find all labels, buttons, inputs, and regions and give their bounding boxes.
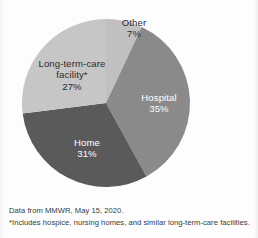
footnote-note: *Includes hospice, nursing homes, and si… (9, 217, 253, 229)
pie-label-other: Other 7% (104, 17, 164, 40)
pie-label-other-value: 7% (104, 28, 164, 39)
pie-label-home-name: Home (56, 137, 118, 148)
pie-label-hospital-name: Hospital (128, 92, 190, 103)
pie-label-long-term-care: Long-term-care facility* 27% (20, 58, 124, 92)
footnote-source: Data from MMWR, May 15, 2020. (9, 205, 253, 217)
pie-chart-figure: Other 7% Hospital 35% Home 31% Long-term… (0, 0, 258, 238)
pie-label-other-name: Other (104, 17, 164, 28)
pie-label-home-value: 31% (56, 148, 118, 159)
pie-label-hospital: Hospital 35% (128, 92, 190, 115)
pie-label-long-term-care-value: 27% (20, 81, 124, 92)
pie-label-long-term-care-name-line2: facility* (20, 69, 124, 80)
figure-footnotes: Data from MMWR, May 15, 2020. *Includes … (9, 205, 253, 230)
pie-label-home: Home 31% (56, 137, 118, 160)
chart-plot-area: Other 7% Hospital 35% Home 31% Long-term… (0, 0, 258, 200)
pie-label-hospital-value: 35% (128, 103, 190, 114)
pie-label-long-term-care-name-line1: Long-term-care (20, 58, 124, 69)
